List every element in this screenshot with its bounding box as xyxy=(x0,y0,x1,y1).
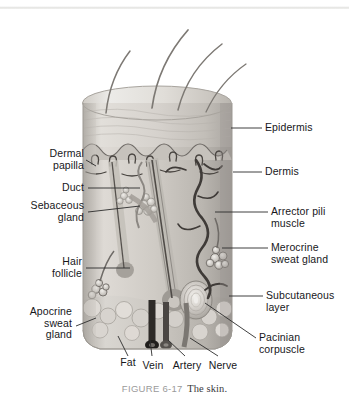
figure-caption: FIGURE 6-17 The skin. xyxy=(0,378,349,396)
skin-block xyxy=(83,86,233,350)
label-merocrine-sweat-gland: Merocrine sweat gland xyxy=(271,242,328,265)
label-arrector-pili-muscle: Arrector pili muscle xyxy=(271,206,325,229)
label-hair-follicle: Hair follicle xyxy=(0,256,82,279)
label-duct: Duct xyxy=(0,182,84,194)
label-dermis: Dermis xyxy=(265,166,299,178)
left-cut-face xyxy=(83,103,96,349)
scan-artifact-line xyxy=(0,6,349,9)
label-apocrine-sweat-gland: Apocrine sweat gland xyxy=(0,306,72,341)
figure-number: FIGURE 6-17 xyxy=(122,383,183,394)
figure-caption-text: The skin. xyxy=(187,383,227,394)
label-nerve: Nerve xyxy=(202,360,244,372)
right-cut-face xyxy=(220,103,232,349)
label-subcutaneous-layer: Subcutaneous layer xyxy=(266,290,334,313)
hair-papilla xyxy=(168,296,180,308)
label-sebaceous-gland: Sebaceous gland xyxy=(0,200,84,223)
label-dermal-papilla: Dermal papilla xyxy=(0,148,84,171)
label-pacinian-corpuscle: Pacinian corpuscle xyxy=(259,332,305,355)
label-epidermis: Epidermis xyxy=(265,122,313,134)
